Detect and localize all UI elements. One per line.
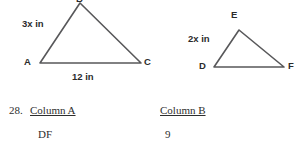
column-b-heading: Column B xyxy=(160,104,206,116)
side-label-ab: 3x in xyxy=(22,19,44,29)
triangle-def-shape xyxy=(214,30,284,67)
worksheet-page: A B C 3x in 12 in D E F 2x in 28. Column… xyxy=(0,0,306,165)
vertex-label-d: D xyxy=(199,61,206,71)
triangle-abc-shape xyxy=(40,3,141,63)
column-a-heading: Column A xyxy=(30,104,76,116)
geometry-figures xyxy=(0,0,306,95)
column-b-value: 9 xyxy=(165,128,171,140)
vertex-label-e: E xyxy=(231,10,237,20)
vertex-label-b: B xyxy=(76,0,83,4)
vertex-label-f: F xyxy=(288,61,294,71)
column-a-value: DF xyxy=(38,128,52,140)
side-label-ac: 12 in xyxy=(72,72,94,82)
vertex-label-c: C xyxy=(144,57,151,67)
vertex-label-a: A xyxy=(24,57,31,67)
side-label-de: 2x in xyxy=(188,34,210,44)
question-number: 28. xyxy=(9,104,23,116)
